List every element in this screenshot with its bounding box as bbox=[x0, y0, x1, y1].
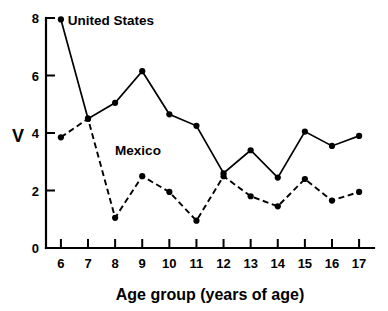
series-line bbox=[61, 19, 359, 177]
data-point bbox=[329, 197, 335, 203]
data-point bbox=[275, 203, 281, 209]
x-tick-label: 12 bbox=[216, 256, 230, 271]
y-axis-ticks bbox=[46, 18, 55, 248]
data-point bbox=[112, 100, 118, 106]
data-point bbox=[356, 189, 362, 195]
data-point bbox=[302, 176, 308, 182]
x-tick-label: 14 bbox=[271, 256, 286, 271]
data-point bbox=[112, 215, 118, 221]
data-point bbox=[302, 128, 308, 134]
line-chart: 02468 V 67891011121314151617 Age group (… bbox=[0, 0, 388, 311]
y-tick-label: 4 bbox=[32, 126, 40, 141]
x-tick-label: 15 bbox=[298, 256, 312, 271]
y-tick-label: 8 bbox=[32, 11, 39, 26]
data-point bbox=[85, 116, 91, 122]
x-tick-label: 11 bbox=[190, 256, 204, 271]
series-label-united-states: United States bbox=[68, 13, 154, 28]
x-axis-title: Age group (years of age) bbox=[116, 286, 304, 303]
data-point bbox=[58, 16, 64, 22]
y-axis-tick-labels: 02468 bbox=[32, 11, 40, 256]
x-axis: 67891011121314151617 Age group (years of… bbox=[46, 239, 374, 303]
series-united-states bbox=[58, 16, 362, 180]
data-point bbox=[193, 218, 199, 224]
data-point bbox=[248, 147, 254, 153]
data-point bbox=[58, 134, 64, 140]
data-series-layer bbox=[58, 16, 362, 223]
x-tick-label: 17 bbox=[352, 256, 366, 271]
x-tick-label: 10 bbox=[162, 256, 176, 271]
data-point bbox=[248, 193, 254, 199]
series-label-mexico: Mexico bbox=[115, 143, 161, 158]
series-mexico bbox=[58, 116, 362, 224]
chart-container: 02468 V 67891011121314151617 Age group (… bbox=[0, 0, 388, 311]
x-axis-ticks bbox=[61, 239, 359, 248]
series-line bbox=[61, 119, 359, 221]
data-point bbox=[356, 133, 362, 139]
series-annotations: United StatesMexico bbox=[68, 13, 161, 157]
y-tick-label: 2 bbox=[32, 184, 39, 199]
y-axis: 02468 V bbox=[12, 11, 55, 256]
data-point bbox=[220, 173, 226, 179]
data-point bbox=[139, 68, 145, 74]
y-axis-title: V bbox=[12, 126, 24, 146]
data-point bbox=[193, 123, 199, 129]
x-tick-label: 16 bbox=[325, 256, 339, 271]
y-tick-label: 0 bbox=[32, 241, 39, 256]
x-tick-label: 7 bbox=[84, 256, 91, 271]
y-tick-label: 6 bbox=[32, 69, 39, 84]
data-point bbox=[275, 174, 281, 180]
x-tick-label: 9 bbox=[139, 256, 146, 271]
x-tick-label: 6 bbox=[57, 256, 64, 271]
x-tick-label: 13 bbox=[243, 256, 257, 271]
x-axis-tick-labels: 67891011121314151617 bbox=[57, 256, 366, 271]
data-point bbox=[139, 173, 145, 179]
data-point bbox=[329, 143, 335, 149]
data-point bbox=[166, 111, 172, 117]
data-point bbox=[166, 189, 172, 195]
x-tick-label: 8 bbox=[112, 256, 119, 271]
